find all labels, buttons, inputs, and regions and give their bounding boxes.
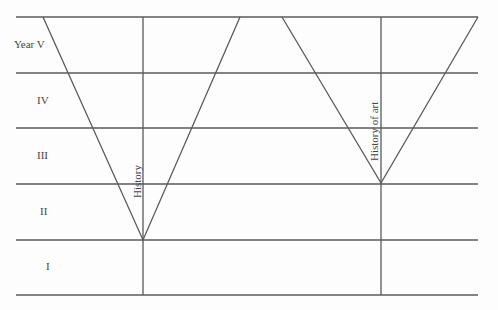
row-label-ii: II [40,205,47,217]
row-label-i: I [46,260,50,272]
subject-label-history-of-art: History of art [368,102,380,161]
year-subject-diagram [0,0,498,310]
history-of-art-v [282,17,478,183]
row-label-iv: IV [37,94,49,106]
subject-label-history: History [131,165,143,198]
row-label-iii: III [37,149,48,161]
row-label-year-v: Year V [14,38,45,50]
